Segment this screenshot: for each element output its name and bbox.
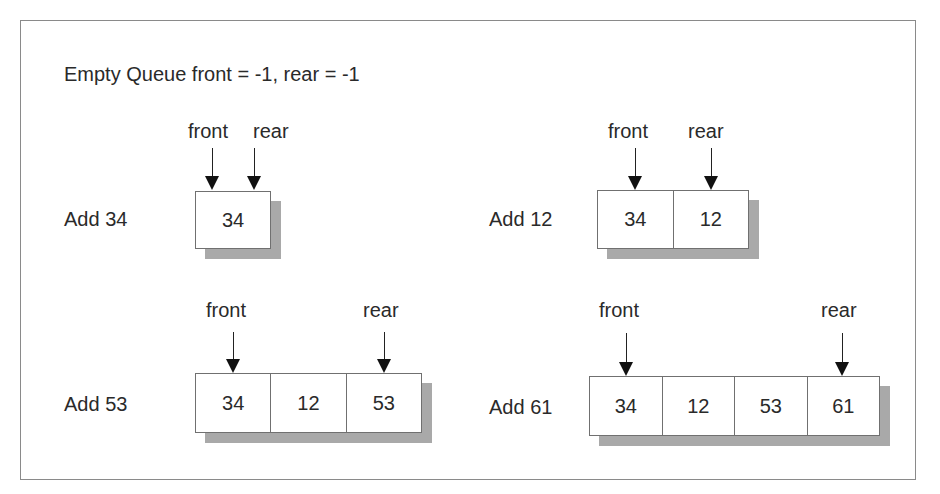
diagram-title: Empty Queue front = -1, rear = -1	[64, 64, 360, 84]
step-label-add-53: Add 53	[64, 394, 127, 414]
rear-label: rear	[253, 121, 289, 141]
front-label: front	[599, 300, 639, 320]
queue-step-2: 34 12	[597, 190, 749, 249]
rear-label: rear	[821, 300, 857, 320]
queue-cell: 34	[196, 192, 270, 248]
queue-cell: 34	[590, 377, 662, 435]
rear-label: rear	[688, 121, 724, 141]
queue-cell: 53	[346, 374, 421, 432]
queue-step-3: 34 12 53	[195, 373, 422, 433]
queue-cell: 34	[598, 191, 673, 248]
queue-cell: 34	[196, 374, 270, 432]
queue-cell: 12	[270, 374, 345, 432]
front-label: front	[188, 121, 228, 141]
queue-cell: 12	[673, 191, 749, 248]
front-label: front	[608, 121, 648, 141]
step-label-add-34: Add 34	[64, 209, 127, 229]
queue-cell: 53	[734, 377, 807, 435]
step-label-add-12: Add 12	[489, 209, 552, 229]
rear-label: rear	[363, 300, 399, 320]
queue-step-1: 34	[195, 191, 271, 249]
queue-step-4: 34 12 53 61	[589, 376, 880, 436]
front-label: front	[206, 300, 246, 320]
step-label-add-61: Add 61	[489, 397, 552, 417]
queue-cell: 61	[807, 377, 880, 435]
queue-cell: 12	[662, 377, 735, 435]
